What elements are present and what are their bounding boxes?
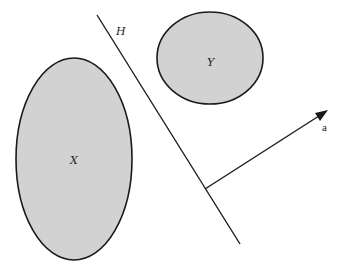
normal-vector-line [205, 114, 322, 189]
hyperplane-label: H [115, 25, 126, 38]
arrowhead-icon [315, 110, 328, 121]
separating-hyperplane-diagram: X Y H a [0, 0, 342, 270]
set-x-label: X [69, 154, 79, 167]
normal-vector-label: a [322, 121, 327, 133]
